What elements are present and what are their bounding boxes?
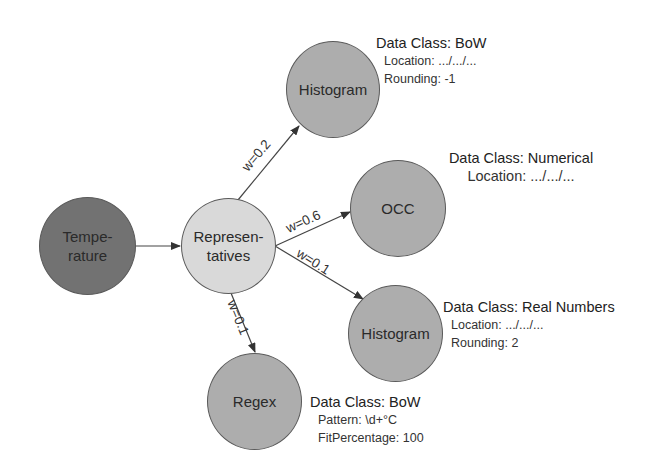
node-histogram-top-label: Histogram	[299, 80, 367, 99]
node-histogram-bottom: Histogram	[348, 285, 443, 382]
annotation-line: Rounding: -1	[376, 70, 486, 88]
annotation-title: Data Class: BoW	[310, 393, 424, 411]
node-temperature: Tempe- rature	[39, 197, 136, 295]
node-histogram-top: Histogram	[286, 41, 380, 138]
annotation-line: FitPercentage: 100	[310, 429, 424, 447]
annotation-line: Rounding: 2	[443, 334, 615, 352]
annotation-title: Data Class: BoW	[376, 34, 486, 52]
node-occ-label: OCC	[381, 199, 414, 218]
annotation-title: Data Class: Numerical	[436, 149, 606, 167]
annotation-histogram-top: Data Class: BoW Location: .../.../... Ro…	[376, 34, 486, 88]
annotation-regex: Data Class: BoW Pattern: \d+°C FitPercen…	[310, 393, 424, 447]
node-histogram-bottom-label: Histogram	[361, 324, 429, 343]
annotation-line: Pattern: \d+°C	[310, 411, 424, 429]
node-occ: OCC	[350, 160, 446, 257]
annotation-line: Location: .../.../...	[376, 52, 486, 70]
annotation-line: Location: .../.../...	[436, 167, 606, 185]
node-regex-label: Regex	[233, 392, 276, 411]
node-representatives-label: Represen- tatives	[193, 227, 263, 265]
annotation-title: Data Class: Real Numbers	[443, 298, 615, 316]
node-representatives: Represen- tatives	[181, 198, 276, 294]
node-temperature-label: Tempe- rature	[62, 227, 112, 265]
node-regex: Regex	[207, 353, 302, 450]
annotation-line: Location: .../.../...	[443, 316, 615, 334]
annotation-histogram-bottom: Data Class: Real Numbers Location: .../.…	[443, 298, 615, 352]
annotation-occ: Data Class: Numerical Location: .../.../…	[436, 149, 606, 185]
